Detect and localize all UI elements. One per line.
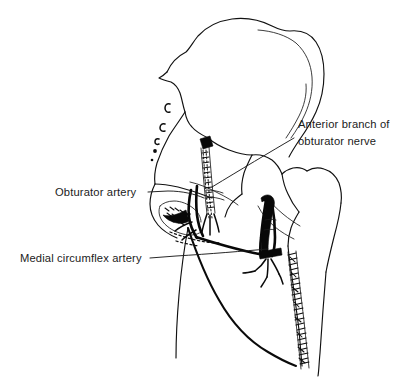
leader-anterior-branch-obturator-nerve: [212, 138, 294, 187]
medial-circumflex-vessel: [196, 195, 283, 287]
femoral-shaft: [288, 246, 326, 376]
greater-trochanter: [307, 168, 341, 272]
label-anterior-branch-obturator-nerve: Anterior branch of obturator nerve: [298, 118, 390, 147]
label-anterior-branch-obturator-nerve-line2: obturator nerve: [298, 135, 376, 147]
anatomical-figure: Anterior branch of obturator nerve Obtur…: [0, 0, 416, 391]
label-obturator-artery-line1: Obturator artery: [55, 186, 137, 198]
label-medial-circumflex-artery-line1: Medial circumflex artery: [20, 252, 142, 264]
anatomy-drawing-canvas: Anterior branch of obturator nerve Obtur…: [0, 0, 416, 391]
obturator-artery-vessel: [163, 186, 203, 240]
obturator-nerve-bundle: [200, 136, 224, 235]
label-medial-circumflex-artery: Medial circumflex artery: [20, 252, 142, 264]
acetabulum: [208, 138, 252, 217]
label-anterior-branch-obturator-nerve-line1: Anterior branch of: [298, 118, 390, 130]
label-obturator-artery: Obturator artery: [55, 186, 137, 198]
